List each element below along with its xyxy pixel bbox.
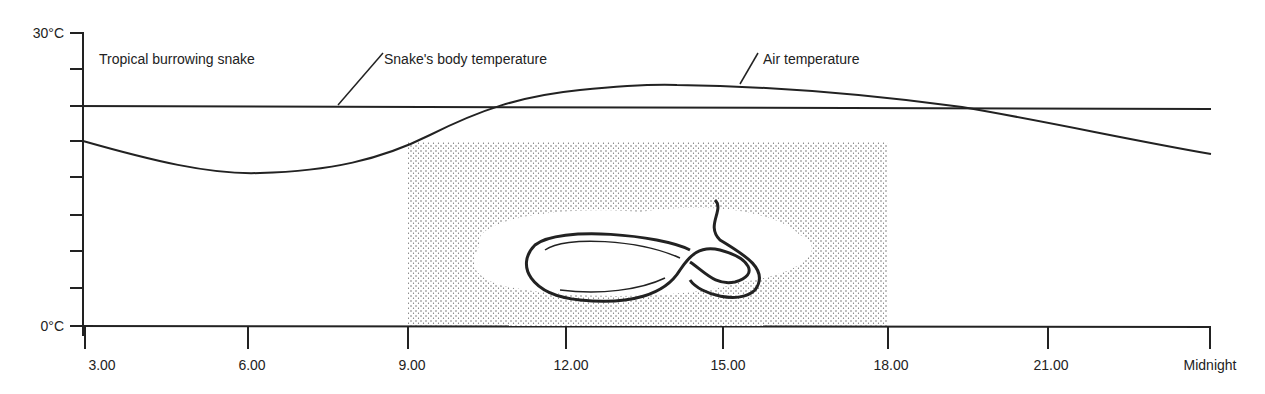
snake-label-leader bbox=[338, 53, 383, 105]
y-axis bbox=[70, 32, 83, 336]
air-label-leader bbox=[740, 53, 758, 84]
snake-series-label: Snake's body temperature bbox=[384, 52, 547, 66]
x-tick-label: 18.00 bbox=[873, 358, 908, 372]
x-tick-label: 15.00 bbox=[710, 358, 745, 372]
x-tick-label: 6.00 bbox=[238, 358, 265, 372]
chart-annotation-title: Tropical burrowing snake bbox=[99, 52, 255, 66]
x-tick-label: 12.00 bbox=[553, 358, 588, 372]
y-axis-label-top: 30°C bbox=[14, 26, 64, 40]
x-tick-label: Midnight bbox=[1184, 358, 1237, 372]
snake-body-temperature-line bbox=[70, 106, 1211, 109]
air-series-label: Air temperature bbox=[763, 52, 859, 66]
x-tick-label: 9.00 bbox=[398, 358, 425, 372]
soil-illustration bbox=[408, 142, 888, 326]
x-tick-label: 21.00 bbox=[1033, 358, 1068, 372]
y-axis-label-bottom: 0°C bbox=[14, 319, 64, 333]
x-tick-label: 3.00 bbox=[88, 358, 115, 372]
x-axis bbox=[70, 326, 1211, 349]
